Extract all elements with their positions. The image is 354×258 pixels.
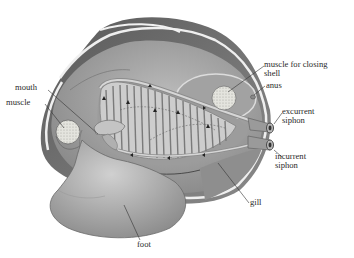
label-gill: gill (250, 198, 261, 207)
anterior-adductor-muscle (56, 120, 80, 144)
label-excurrent-siphon: excurrent siphon (282, 107, 314, 126)
label-incurrent-siphon: incurrent siphon (275, 152, 306, 171)
anus-structure (251, 95, 256, 99)
label-mouth: mouth (15, 83, 37, 92)
posterior-adductor-muscle (212, 86, 236, 110)
label-foot: foot (137, 240, 151, 249)
label-muscle-for-closing-shell: muscle for closing shell (264, 60, 327, 79)
clam-illustration (0, 0, 354, 258)
label-anus: anus (266, 81, 282, 90)
label-muscle: muscle (6, 98, 30, 107)
clam-anatomy-diagram: muscle for closing shell anus excurrent … (0, 0, 354, 258)
